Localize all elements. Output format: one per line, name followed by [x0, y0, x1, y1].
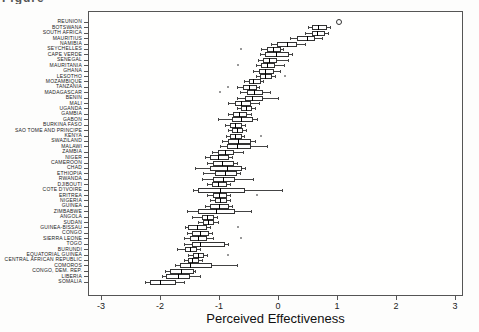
iqr-box [247, 90, 263, 95]
whisker-cap-low [240, 91, 241, 94]
median-line [267, 63, 268, 68]
y-axis-tick [84, 222, 88, 223]
y-axis-tick [84, 184, 88, 185]
median-line [178, 274, 179, 279]
whisker-low [220, 146, 227, 147]
whisker-high [233, 211, 251, 212]
y-axis-tick [84, 27, 88, 28]
whisker-cap-low [260, 53, 261, 56]
iqr-box [249, 79, 261, 84]
whisker-cap-high [184, 281, 185, 284]
whisker-cap-low [228, 113, 229, 116]
whisker-cap-low [237, 86, 238, 89]
whisker-cap-low [205, 205, 206, 208]
whisker-cap-high [259, 86, 260, 89]
whisker-cap-high [255, 107, 256, 110]
whisker-cap-high [243, 151, 244, 154]
whisker-high [210, 265, 237, 266]
iqr-box [215, 198, 227, 203]
median-line [218, 155, 219, 160]
country-label: SOMALIA [0, 279, 82, 284]
outlier-dot [237, 64, 239, 66]
y-axis-tick [84, 136, 88, 137]
median-line [265, 74, 266, 79]
whisker-cap-high [280, 70, 281, 73]
whisker-cap-low [237, 107, 238, 110]
x-tick-label: -1 [204, 301, 234, 311]
iqr-box [180, 263, 212, 268]
median-line [276, 52, 277, 57]
y-axis-tick [84, 125, 88, 126]
median-line [254, 90, 255, 95]
whisker-cap-low [271, 43, 272, 46]
whisker-cap-low [184, 237, 185, 240]
y-axis-tick [84, 195, 88, 196]
whisker-cap-low [165, 270, 166, 273]
whisker-low [192, 217, 202, 218]
whisker-cap-low [175, 264, 176, 267]
median-line [225, 171, 226, 176]
whisker-cap-low [184, 243, 185, 246]
median-line [253, 79, 254, 84]
median-line [307, 36, 308, 41]
y-axis-tick [84, 71, 88, 72]
y-axis-tick [84, 38, 88, 39]
y-axis-tick [84, 98, 88, 99]
y-axis-tick [84, 146, 88, 147]
whisker-cap-high [237, 162, 238, 165]
x-tick-label: 2 [381, 301, 411, 311]
outlier-dot [260, 135, 262, 137]
whisker-cap-high [213, 237, 214, 240]
whisker-cap-low [253, 70, 254, 73]
whisker-high [261, 98, 278, 99]
x-tick-label: -2 [145, 301, 175, 311]
y-axis-tick [84, 44, 88, 45]
y-axis-tick [84, 244, 88, 245]
whisker-cap-high [305, 43, 306, 46]
whisker-cap-low [222, 140, 223, 143]
whisker-cap-high [322, 37, 323, 40]
whisker-cap-high [251, 113, 252, 116]
y-axis-tick [84, 22, 88, 23]
whisker-cap-low [188, 254, 189, 257]
iqr-box [185, 247, 197, 252]
y-axis-tick [84, 211, 88, 212]
whisker-cap-low [228, 129, 229, 132]
y-axis-tick [84, 152, 88, 153]
outlier-dot [284, 75, 286, 77]
median-line [317, 31, 318, 36]
whisker-cap-high [228, 243, 229, 246]
whisker-cap-low [187, 232, 188, 235]
whisker-cap-low [185, 226, 186, 229]
whisker-cap-low [193, 189, 194, 192]
whisker-cap-high [245, 167, 246, 170]
whisker-cap-high [240, 172, 241, 175]
x-axis-tick [219, 296, 220, 300]
whisker-low [203, 173, 215, 174]
median-line [241, 117, 242, 122]
whisker-cap-high [244, 135, 245, 138]
whisker-low [290, 38, 297, 39]
whisker-cap-high [210, 226, 211, 229]
y-axis-tick [84, 233, 88, 234]
whisker-cap-high [283, 48, 284, 51]
whisker-cap-high [230, 183, 231, 186]
y-axis-tick [84, 33, 88, 34]
median-line [246, 106, 247, 111]
whisker-cap-high [217, 216, 218, 219]
whisker-cap-high [251, 210, 252, 213]
whisker-low [184, 244, 192, 245]
outlier-circle [336, 19, 342, 25]
y-axis-tick [84, 163, 88, 164]
whisker-low [240, 92, 247, 93]
outlier-dot [227, 254, 229, 256]
whisker-cap-high [255, 140, 256, 143]
whisker-cap-low [218, 118, 219, 121]
whisker-cap-low [205, 156, 206, 159]
whisker-cap-high [246, 129, 247, 132]
cropped-figure-caption-text: Figure [2, 0, 45, 4]
whisker-low [218, 119, 232, 120]
y-axis-tick [84, 200, 88, 201]
whisker-cap-high [284, 64, 285, 67]
whisker-cap-low [177, 248, 178, 251]
